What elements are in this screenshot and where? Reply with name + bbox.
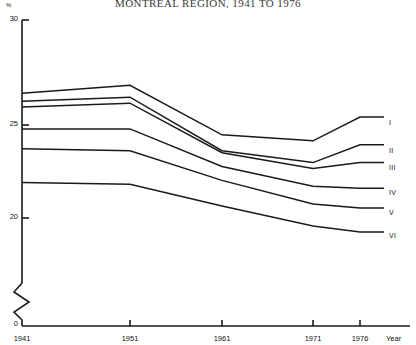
- series-line-ii: [22, 97, 384, 162]
- series-line-i: [22, 85, 384, 141]
- series-lines-group: [22, 85, 384, 232]
- chart-plot-area: [0, 0, 416, 345]
- y-axis: [14, 20, 29, 326]
- series-line-vi: [22, 182, 384, 232]
- chart-container: MONTREAL REGION, 1941 TO 1976 % 30 25 20…: [0, 0, 416, 345]
- x-axis: [22, 320, 410, 326]
- series-line-v: [22, 149, 384, 208]
- series-line-iv: [22, 129, 384, 188]
